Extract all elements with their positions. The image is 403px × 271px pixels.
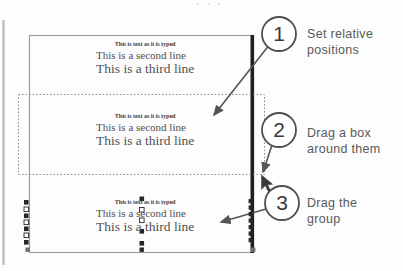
callout-label-drag-a-box: Drag a box around them (307, 125, 380, 157)
callout-label-3-line-2: group (307, 211, 357, 227)
text-line-third: This is a third line (96, 134, 194, 148)
diagram-canvas: . . . (0, 0, 403, 271)
callout-label-2-line-2: around them (307, 141, 380, 157)
text-line-second: This is a second line (96, 50, 194, 61)
selection-handles-left[interactable] (24, 200, 29, 245)
callout-label-drag-the-group: Drag the group (307, 195, 357, 227)
selection-handles-bottom[interactable] (26, 248, 256, 252)
text-line-second: This is a second line (96, 122, 194, 133)
text-line-typed: This is text as it is typed (96, 41, 194, 47)
text-block-selected[interactable]: This is text as it is typed This is a se… (96, 199, 194, 233)
text-block-unselected[interactable]: This is text as it is typed This is a se… (96, 41, 194, 75)
callout-leader-2 (263, 145, 272, 172)
text-line-typed: This is text as it is typed (96, 199, 194, 205)
callout-label-2-line-1: Drag a box (307, 125, 380, 141)
text-line-second: This is a second line (96, 208, 194, 219)
callout-leader-3 (221, 209, 266, 222)
callout-number-3: 3 (265, 186, 299, 220)
callout-number-1: 1 (262, 17, 296, 51)
callout-label-1-line-1: Set relative (307, 26, 373, 42)
callout-label-set-relative-positions: Set relative positions (307, 26, 373, 58)
text-line-third: This is a third line (96, 220, 194, 234)
callout-number-2: 2 (262, 113, 296, 147)
text-block-inside-marquee[interactable]: This is text as it is typed This is a se… (96, 113, 194, 147)
callout-leader-1 (214, 47, 268, 116)
text-line-typed: This is text as it is typed (96, 113, 194, 119)
callout-label-1-line-2: positions (307, 42, 373, 58)
callout-label-3-line-1: Drag the (307, 195, 357, 211)
text-line-third: This is a third line (96, 62, 194, 76)
